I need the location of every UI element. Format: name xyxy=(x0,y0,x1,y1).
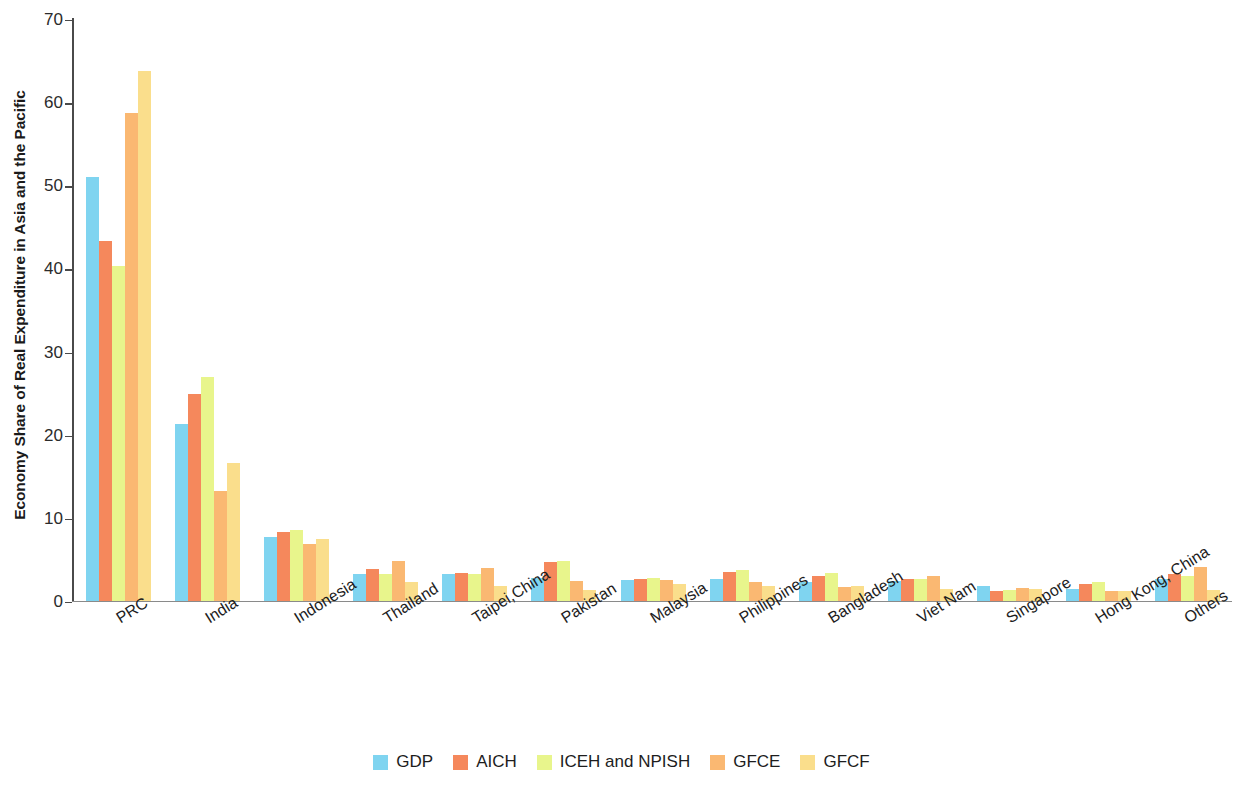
bar[interactable] xyxy=(736,570,749,601)
bar-group xyxy=(1054,19,1143,601)
x-axis-label-cell: Taipei,China xyxy=(430,604,519,724)
x-axis-line xyxy=(72,601,1232,602)
y-tick-label: 10 xyxy=(44,509,63,529)
bar[interactable] xyxy=(468,574,481,601)
y-tick-label: 50 xyxy=(44,176,63,196)
x-axis-label-cell: Hong Kong, China xyxy=(1054,604,1143,724)
y-tick-label: 70 xyxy=(44,10,63,30)
bar[interactable] xyxy=(125,113,138,600)
legend-label: AICH xyxy=(476,752,517,772)
bar-group xyxy=(698,19,787,601)
bar[interactable] xyxy=(112,266,125,600)
bar[interactable] xyxy=(99,241,112,600)
bar[interactable] xyxy=(264,537,277,601)
x-axis-label-cell: Malaysia xyxy=(608,604,697,724)
x-axis-label-cell: Viet Nam xyxy=(876,604,965,724)
x-axis-label-cell: Others xyxy=(1143,604,1232,724)
legend-swatch-icon xyxy=(710,755,725,770)
bar[interactable] xyxy=(303,544,316,601)
bar[interactable] xyxy=(634,579,647,601)
plot-area: 010203040506070 xyxy=(72,18,1232,602)
bar[interactable] xyxy=(723,572,736,600)
y-tick-mark xyxy=(65,436,72,437)
bar[interactable] xyxy=(214,491,227,601)
bar-group xyxy=(965,19,1054,601)
bar-group xyxy=(608,19,697,601)
bar[interactable] xyxy=(1181,576,1194,601)
bar[interactable] xyxy=(188,394,201,601)
legend-item[interactable]: GDP xyxy=(373,752,433,772)
x-axis-labels: PRCIndiaIndonesiaThailandTaipei,ChinaPak… xyxy=(74,604,1232,724)
bar-group xyxy=(341,19,430,601)
bar[interactable] xyxy=(710,579,723,601)
x-axis-label-cell: Thailand xyxy=(341,604,430,724)
bar-group xyxy=(1143,19,1232,601)
y-tick-label: 0 xyxy=(54,592,63,612)
bar[interactable] xyxy=(175,424,188,601)
chart-legend: GDPAICHICEH and NPISHGFCEGFCF xyxy=(0,752,1243,772)
y-tick-label: 40 xyxy=(44,259,63,279)
x-axis-label-cell: India xyxy=(163,604,252,724)
bar[interactable] xyxy=(621,580,634,601)
x-axis-label-cell: Bangladesh xyxy=(787,604,876,724)
bar[interactable] xyxy=(442,574,455,601)
bar[interactable] xyxy=(825,573,838,600)
legend-swatch-icon xyxy=(800,755,815,770)
bar[interactable] xyxy=(227,463,240,601)
bar[interactable] xyxy=(366,569,379,601)
x-axis-label-cell: PRC xyxy=(74,604,163,724)
bar[interactable] xyxy=(138,71,151,601)
y-tick-mark xyxy=(65,269,72,270)
bar[interactable] xyxy=(379,574,392,601)
bar[interactable] xyxy=(1003,590,1016,601)
legend-label: ICEH and NPISH xyxy=(560,752,690,772)
bar-group xyxy=(787,19,876,601)
bar-group xyxy=(74,19,163,601)
legend-item[interactable]: AICH xyxy=(453,752,517,772)
bar-group xyxy=(876,19,965,601)
y-tick-mark xyxy=(65,20,72,21)
bar[interactable] xyxy=(481,568,494,600)
y-tick-label: 30 xyxy=(44,343,63,363)
bar[interactable] xyxy=(455,573,468,600)
bar-group xyxy=(252,19,341,601)
y-axis-title: Economy Share of Real Expenditure in Asi… xyxy=(6,0,34,610)
bar-group xyxy=(519,19,608,601)
bar-group xyxy=(163,19,252,601)
y-tick-label: 60 xyxy=(44,93,63,113)
legend-swatch-icon xyxy=(453,755,468,770)
legend-label: GFCF xyxy=(823,752,869,772)
bar[interactable] xyxy=(647,578,660,600)
chart-canvas: Economy Share of Real Expenditure in Asi… xyxy=(0,0,1243,787)
bar[interactable] xyxy=(1092,582,1105,600)
bar[interactable] xyxy=(86,177,99,600)
bar[interactable] xyxy=(557,561,570,601)
legend-label: GFCE xyxy=(733,752,780,772)
x-axis-label-cell: Philippines xyxy=(698,604,787,724)
y-tick-mark xyxy=(65,103,72,104)
y-tick-mark xyxy=(65,602,72,603)
bar[interactable] xyxy=(812,576,825,601)
x-axis-label-cell: Singapore xyxy=(965,604,1054,724)
bar[interactable] xyxy=(977,586,990,601)
legend-swatch-icon xyxy=(537,755,552,770)
y-tick-label: 20 xyxy=(44,426,63,446)
legend-item[interactable]: ICEH and NPISH xyxy=(537,752,690,772)
bar[interactable] xyxy=(914,579,927,601)
bar-group xyxy=(430,19,519,601)
x-axis-label-cell: Pakistan xyxy=(519,604,608,724)
y-tick-mark xyxy=(65,353,72,354)
y-tick-mark xyxy=(65,186,72,187)
bar[interactable] xyxy=(290,530,303,601)
bar[interactable] xyxy=(392,561,405,601)
legend-label: GDP xyxy=(396,752,433,772)
legend-item[interactable]: GFCE xyxy=(710,752,780,772)
bar[interactable] xyxy=(1079,584,1092,601)
bar[interactable] xyxy=(277,532,290,601)
bar[interactable] xyxy=(990,591,1003,600)
x-axis-label-cell: Indonesia xyxy=(252,604,341,724)
legend-item[interactable]: GFCF xyxy=(800,752,869,772)
y-axis-title-text: Economy Share of Real Expenditure in Asi… xyxy=(11,90,29,520)
bar[interactable] xyxy=(201,377,214,601)
bar-groups xyxy=(74,19,1232,601)
